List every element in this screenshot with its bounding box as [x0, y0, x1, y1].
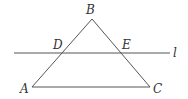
label-e: E [121, 38, 131, 52]
label-d: D [52, 38, 63, 52]
label-l: l [173, 46, 177, 60]
triangle-diagram: B D E l A C [0, 0, 188, 99]
label-b: B [85, 3, 95, 17]
label-a: A [19, 82, 29, 96]
label-c: C [153, 82, 162, 96]
